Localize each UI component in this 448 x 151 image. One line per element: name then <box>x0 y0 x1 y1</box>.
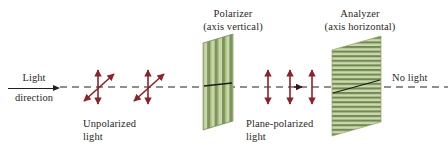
light-direction-line1: Light <box>6 72 62 85</box>
unpolarized-light-label: Unpolarized light <box>83 118 169 143</box>
light-direction-label: Light direction <box>6 72 62 104</box>
arrow-shaft <box>8 88 54 89</box>
plane-polarized-light-label: Plane-polarized light <box>246 118 356 143</box>
unpolarized-label-line1: Unpolarized <box>83 118 169 131</box>
polarizer-caption-line1: Polarizer <box>188 8 278 21</box>
polarizer-caption-line2: (axis vertical) <box>188 21 278 34</box>
polarizer-caption: Polarizer (axis vertical) <box>188 8 278 33</box>
analyzer-caption: Analyzer (axis horizontal) <box>310 8 410 33</box>
light-direction-arrow-icon <box>8 85 60 92</box>
unpolarized-label-line2: light <box>83 131 169 144</box>
analyzer-caption-line2: (axis horizontal) <box>310 21 410 34</box>
plane-polarized-label-line2: light <box>246 131 356 144</box>
polarization-figure: Polarizer (axis vertical) Analyzer (axis… <box>0 0 448 151</box>
analyzer-caption-line1: Analyzer <box>310 8 410 21</box>
polarizer-filter <box>203 34 233 130</box>
arrow-head <box>53 85 60 91</box>
no-light-label: No light <box>392 72 428 85</box>
plane-polarized-label-line1: Plane-polarized <box>246 118 356 131</box>
light-direction-line2: direction <box>6 92 62 105</box>
